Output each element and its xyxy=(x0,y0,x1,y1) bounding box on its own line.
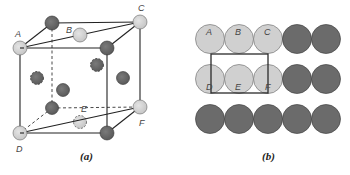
plane-corner-marks xyxy=(20,48,24,133)
atom-back-top-left xyxy=(45,16,59,30)
label-f: F xyxy=(139,118,145,128)
caption-a: (a) xyxy=(80,150,93,163)
label-b-plane: B xyxy=(235,27,241,37)
label-f-plane: F xyxy=(265,82,271,92)
atom-plane xyxy=(225,105,254,134)
label-e: E xyxy=(81,104,88,114)
atom-plane xyxy=(312,105,341,134)
panel-b-plane-arrangement: A B C D E F (b) xyxy=(196,25,341,164)
label-d-plane: D xyxy=(206,82,213,92)
atom-plane xyxy=(283,65,312,94)
atom-c xyxy=(133,15,147,29)
atom-plane xyxy=(283,105,312,134)
atom-right-face-center xyxy=(117,72,130,85)
label-c: C xyxy=(138,3,145,13)
atom-plane xyxy=(312,65,341,94)
atom-f xyxy=(133,100,147,114)
atom-plane xyxy=(254,105,283,134)
label-e-plane: E xyxy=(235,82,242,92)
fcc-figure: A B C D E F (a) A B C D E F ( xyxy=(0,0,350,175)
atom-plane xyxy=(312,25,341,54)
label-a-plane: A xyxy=(205,27,212,37)
atom-back-bottom-left xyxy=(46,102,59,115)
label-d: D xyxy=(16,144,23,154)
atom-front-bottom-right xyxy=(100,126,114,140)
atom-back-face-center xyxy=(91,59,104,72)
atom-plane xyxy=(283,25,312,54)
atom-b xyxy=(73,28,87,42)
atom-left-face-center xyxy=(31,72,44,85)
caption-b: (b) xyxy=(262,150,275,163)
label-b: B xyxy=(66,25,72,35)
label-c-plane: C xyxy=(264,27,271,37)
atom-front-top-right xyxy=(100,41,114,55)
atom-front-face-center xyxy=(57,84,70,97)
label-a: A xyxy=(14,29,21,39)
panel-a-unit-cell: A B C D E F (a) xyxy=(13,3,147,163)
atom-plane xyxy=(196,105,225,134)
atom-e xyxy=(74,116,87,129)
